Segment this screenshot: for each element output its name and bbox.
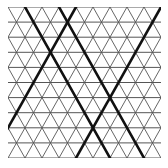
grid-diagonal-line xyxy=(0,7,8,158)
grid-diagonal-line xyxy=(161,7,168,158)
triangle-grid-diagram xyxy=(0,0,168,168)
grid-diagonal-line xyxy=(0,7,8,158)
triangle-grid-lines xyxy=(0,7,168,158)
grid-diagonal-line xyxy=(161,7,168,158)
